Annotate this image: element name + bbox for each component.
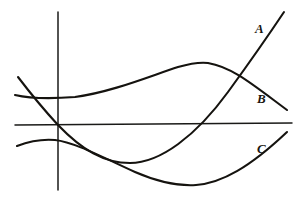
curve-b: [15, 63, 287, 110]
curve-diagram: A B C: [0, 0, 302, 198]
curve-label-c: C: [257, 141, 266, 156]
curve-label-b: B: [256, 91, 266, 106]
figure-container: A B C: [0, 0, 302, 198]
curve-label-a: A: [254, 21, 264, 36]
